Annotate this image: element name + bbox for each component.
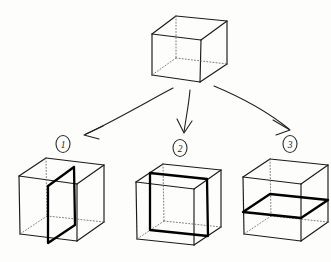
source-cube <box>152 16 227 82</box>
label-cube-1-text: 1 <box>61 140 66 150</box>
cube-3-hidden-edge <box>270 159 271 216</box>
arrow-shaft <box>86 88 173 134</box>
label-cube-3: 3 <box>283 136 297 153</box>
cube-2-cutting-plane <box>150 173 208 236</box>
label-cube-3-text: 3 <box>287 140 293 150</box>
arrow-to-cube-3 <box>214 86 290 135</box>
cube-2-edge <box>137 239 194 245</box>
cube-3-cutting-plane <box>243 194 328 218</box>
source-cube-edge <box>176 16 227 21</box>
cube-3-hidden-edge <box>244 216 271 234</box>
result-cube-2 <box>136 164 221 245</box>
cube-3-edge <box>301 165 328 184</box>
cube-3-edge <box>243 177 244 234</box>
cube-3-edge <box>243 177 301 184</box>
cube-3-edge <box>301 222 328 241</box>
cube-1-edge <box>77 165 104 184</box>
arrow-head-icon <box>84 126 103 139</box>
cube-1-edge <box>19 176 77 184</box>
source-cube-edge <box>201 21 227 40</box>
cube-1-edge <box>46 158 104 165</box>
cube-2-hidden-edge <box>163 164 164 221</box>
cube-1-cutting-plane <box>48 167 75 243</box>
cube-1-edge <box>19 158 46 176</box>
cube-2-edge <box>136 182 137 239</box>
cube-3-edge <box>243 159 270 177</box>
source-cube-edge <box>152 34 201 40</box>
figure-root: 1 2 <box>0 0 331 262</box>
cube-2-edge <box>163 164 221 170</box>
source-cube-hidden-edge <box>176 58 227 64</box>
source-cube-edge <box>152 16 176 34</box>
source-cube-edge <box>200 64 227 82</box>
source-cube-edge <box>152 75 200 82</box>
arrow-to-cube-1 <box>84 88 173 139</box>
label-cube-1: 1 <box>56 136 70 153</box>
label-cube-2-text: 2 <box>178 144 183 154</box>
arrow-to-cube-2 <box>177 90 192 133</box>
result-cube-1 <box>19 158 104 243</box>
cube-3-edge <box>244 234 301 241</box>
source-cube-hidden-edge <box>152 58 176 75</box>
cube-2-edge <box>136 182 194 189</box>
cube-2-hidden-edge <box>164 221 221 227</box>
cube-sectioning-diagram: 1 2 <box>0 0 331 262</box>
label-cube-2: 2 <box>173 140 187 157</box>
cube-1-hidden-edge <box>20 216 47 234</box>
cube-1-edge <box>77 222 104 241</box>
result-cube-3 <box>243 159 328 241</box>
cube-3-edge <box>270 159 328 165</box>
cube-1-edge <box>19 176 20 234</box>
